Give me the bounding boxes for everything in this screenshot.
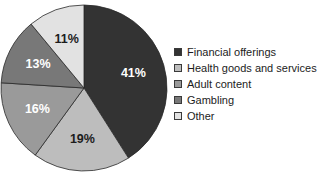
pie-slice-value-label: 16% <box>25 102 50 116</box>
legend-swatch-icon <box>174 80 182 88</box>
pie-slice-value-label: 41% <box>121 66 146 80</box>
pie-slice-value-label: 19% <box>70 132 95 146</box>
legend-item[interactable]: Health goods and services <box>174 60 319 76</box>
legend-item[interactable]: Gambling <box>174 92 319 108</box>
legend-swatch-icon <box>174 48 182 56</box>
pie-slice-value-label: 13% <box>26 57 51 71</box>
legend-item-label: Gambling <box>187 94 234 106</box>
pie-chart: 41%19%16%13%11% Financial offeringsHealt… <box>0 0 319 181</box>
pie-slice-value-label: 11% <box>54 32 78 46</box>
legend-item-label: Health goods and services <box>187 62 317 74</box>
pie-figure: 41%19%16%13%11% <box>0 0 172 181</box>
legend-item-label: Other <box>187 110 215 122</box>
pie-svg: 41%19%16%13%11% <box>0 0 172 181</box>
legend-item[interactable]: Adult content <box>174 76 319 92</box>
legend-item-label: Adult content <box>187 78 251 90</box>
chart-legend: Financial offeringsHealth goods and serv… <box>174 44 319 124</box>
legend-item[interactable]: Financial offerings <box>174 44 319 60</box>
legend-swatch-icon <box>174 64 182 72</box>
pie-slices <box>1 5 167 171</box>
legend-swatch-icon <box>174 112 182 120</box>
legend-item-label: Financial offerings <box>187 46 276 58</box>
legend-swatch-icon <box>174 96 182 104</box>
legend-item[interactable]: Other <box>174 108 319 124</box>
